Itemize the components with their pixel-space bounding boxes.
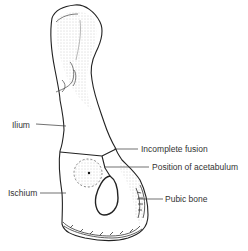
label-ilium: Ilium	[12, 120, 30, 130]
label-acetabulum: Position of acetabulum	[152, 162, 238, 172]
label-pubic-bone: Pubic bone	[165, 194, 208, 204]
label-incomplete-fusion: Incomplete fusion	[141, 144, 208, 154]
pelvic-bone-diagram	[0, 0, 248, 251]
label-ischium: Ischium	[8, 188, 37, 198]
acetabulum-center-dot	[88, 172, 90, 174]
